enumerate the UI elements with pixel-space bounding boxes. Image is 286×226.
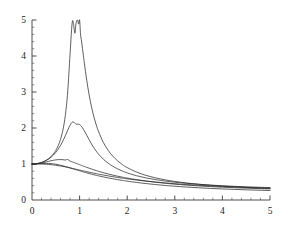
- x-tick-label: 4: [220, 206, 225, 216]
- x-axis-tick-labels: 012345: [30, 206, 273, 216]
- plot-area: 012345 012345: [0, 0, 286, 226]
- y-tick-label: 0: [21, 195, 26, 205]
- curve-5: [32, 164, 270, 188]
- x-tick-label: 0: [30, 206, 35, 216]
- x-tick-label: 1: [77, 206, 82, 216]
- y-axis-tick-labels: 012345: [21, 15, 26, 205]
- curve-1: [32, 20, 270, 189]
- x-tick-label: 5: [268, 206, 273, 216]
- x-tick-label: 2: [125, 206, 130, 216]
- curve-group: [32, 20, 270, 191]
- y-tick-label: 3: [21, 87, 26, 97]
- resonance-chart: 012345 012345: [0, 0, 286, 226]
- y-tick-label: 5: [21, 15, 26, 25]
- curve-3: [32, 159, 270, 188]
- y-tick-label: 4: [21, 51, 26, 61]
- y-tick-label: 1: [21, 159, 26, 169]
- x-tick-label: 3: [172, 206, 177, 216]
- y-tick-label: 2: [21, 123, 26, 133]
- curve-2: [32, 122, 270, 188]
